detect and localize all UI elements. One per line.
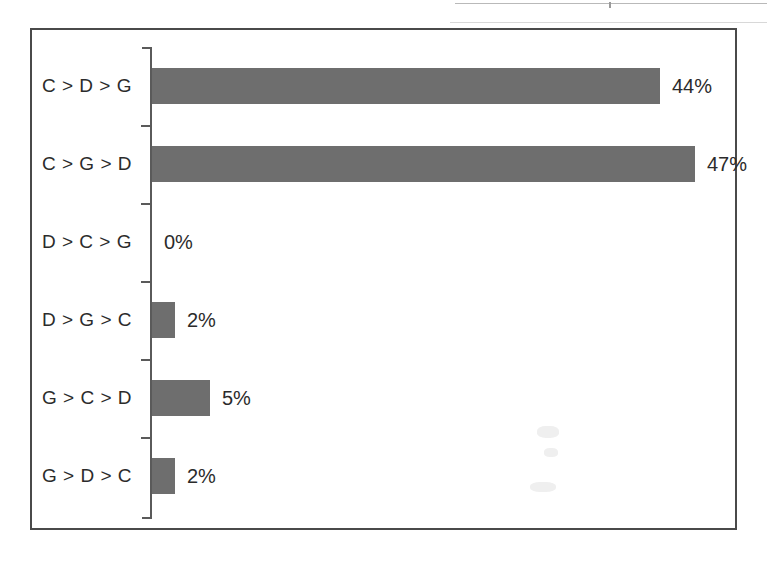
bar-row: C > D > G44% — [32, 47, 735, 125]
bar-value-label: 47% — [707, 153, 747, 176]
bar-row: D > C > G0% — [32, 203, 735, 281]
bar-value-label: 2% — [187, 309, 216, 332]
plot-area: C > D > G44%C > G > D47%D > C > G0%D > G… — [32, 30, 735, 528]
scan-artifact-top-rule — [455, 3, 767, 4]
bar-value-label: 44% — [672, 75, 712, 98]
bar-value-label: 2% — [187, 465, 216, 488]
category-label: D > G > C — [42, 309, 142, 331]
bar-value-label: 0% — [164, 231, 193, 254]
category-label: D > C > G — [42, 231, 142, 253]
category-label: C > G > D — [42, 153, 142, 175]
bar-row: G > D > C2% — [32, 437, 735, 515]
scan-artifact-second-rule — [450, 22, 767, 23]
scan-artifact-speck — [609, 2, 611, 8]
category-label: G > D > C — [42, 465, 142, 487]
bar-value-label: 5% — [222, 387, 251, 410]
bar-row: G > C > D5% — [32, 359, 735, 437]
bar — [152, 380, 210, 416]
bar-row: C > G > D47% — [32, 125, 735, 203]
bar — [152, 68, 660, 104]
category-label: G > C > D — [42, 387, 142, 409]
bar — [152, 302, 175, 338]
bar — [152, 458, 175, 494]
bar-row: D > G > C2% — [32, 281, 735, 359]
category-axis-bottom-cap — [142, 517, 152, 519]
chart-frame: C > D > G44%C > G > D47%D > C > G0%D > G… — [30, 28, 737, 530]
bar — [152, 146, 695, 182]
category-label: C > D > G — [42, 75, 142, 97]
